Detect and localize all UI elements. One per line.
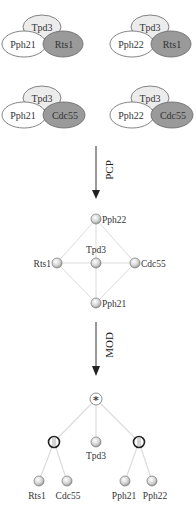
- label-top: Tpd3: [31, 22, 52, 33]
- label-left: Pph22: [118, 39, 144, 50]
- label-left: Pph21: [10, 39, 36, 50]
- label-cdc55: Cdc55: [56, 491, 81, 501]
- node-tpd3: [91, 258, 101, 268]
- node-rts1: [52, 258, 62, 268]
- label-rts1: Rts1: [34, 259, 52, 269]
- label-right: Rts1: [163, 39, 181, 50]
- label-right: Cdc55: [52, 110, 78, 121]
- complex-3: Tpd3 Pph21 Cdc55: [2, 86, 85, 128]
- pcp-label: PCP: [103, 160, 115, 180]
- leaf-cdc55: [62, 476, 72, 486]
- leaf-pph22: [147, 476, 157, 486]
- arrow-head-icon: [92, 366, 100, 376]
- label-top: Tpd3: [31, 93, 52, 104]
- complex-1: Tpd3 Pph21 Rts1: [2, 15, 83, 57]
- label-pph22: Pph22: [102, 215, 127, 225]
- leaf-tpd3: [91, 437, 101, 447]
- label-left: Pph21: [10, 110, 36, 121]
- label-top: Tpd3: [139, 93, 160, 104]
- label-rts1: Rts1: [28, 491, 46, 501]
- label-tpd3: Tpd3: [86, 451, 106, 461]
- label-cdc55: Cdc55: [141, 259, 166, 269]
- parallel-node-right: [134, 437, 145, 448]
- leaf-pph21: [120, 476, 130, 486]
- label-right: Cdc55: [160, 110, 186, 121]
- mod-label: MOD: [103, 332, 115, 358]
- node-pph21: [91, 298, 101, 308]
- label-right: Rts1: [55, 39, 73, 50]
- interaction-network: Pph22 Rts1 Tpd3 Cdc55 Pph21: [34, 214, 166, 309]
- decomposition-tree: * Tpd3 Rts1 Cdc55 Pph21 Pph22: [28, 393, 167, 501]
- complex-4: Tpd3 Pph22 Cdc55: [110, 86, 193, 128]
- label-tpd3: Tpd3: [86, 245, 106, 255]
- node-pph22: [91, 214, 101, 224]
- label-pph21: Pph21: [102, 299, 127, 309]
- parallel-node-left: [49, 437, 60, 448]
- label-pph22: Pph22: [143, 491, 168, 501]
- label-left: Pph22: [118, 110, 144, 121]
- label-top: Tpd3: [139, 22, 160, 33]
- asterisk-icon: *: [93, 394, 99, 407]
- complex-2: Tpd3 Pph22 Rts1: [110, 15, 191, 57]
- pcp-arrow: PCP: [92, 146, 115, 199]
- arrow-head-icon: [92, 190, 100, 199]
- mod-arrow: MOD: [92, 322, 115, 376]
- leaf-rts1: [34, 476, 44, 486]
- node-cdc55: [130, 258, 140, 268]
- label-pph21: Pph21: [112, 491, 137, 501]
- series-node-root: *: [90, 393, 102, 407]
